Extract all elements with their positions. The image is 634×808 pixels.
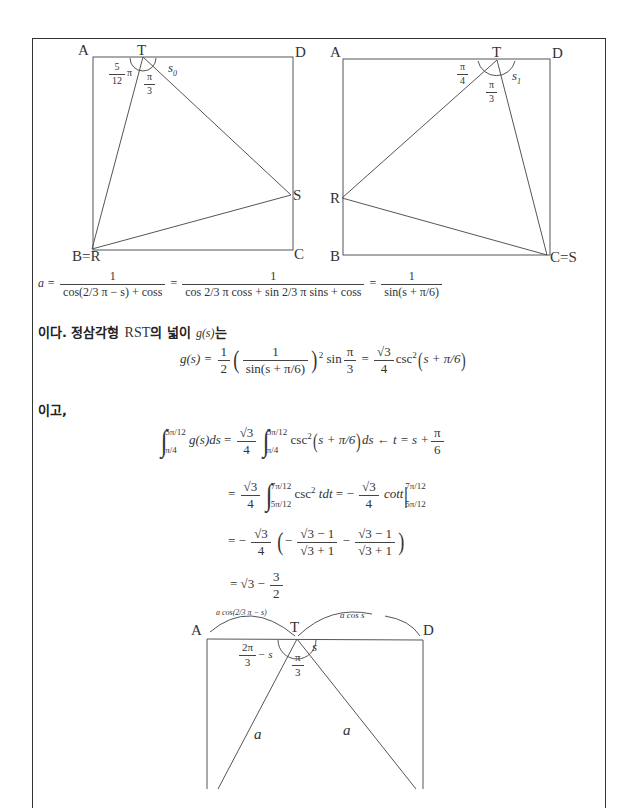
angle-left: π4 — [455, 62, 470, 86]
top-left-length-label: a cos(2/3 π − s) — [216, 608, 267, 617]
vertex-t: T — [137, 42, 146, 59]
text-area-statement: 이다. 정삼각형 RST의 넓이 g(s)는 — [38, 322, 227, 341]
equation-g: g(s) = 12(1sin(s + π/6))2 sinπ3 = √34csc… — [180, 345, 467, 375]
vertex-cs: C=S — [550, 249, 577, 266]
vertex-r: R — [330, 190, 340, 207]
angle-mid: π3 — [142, 72, 157, 96]
equation-a: a = 1cos(2/3 π − s) + coss = 1cos 2/3 π … — [38, 270, 444, 298]
integral-line-1: ∫5π/12π/4 g(s)ds = √34 ∫5π/12π/4 csc2(s … — [160, 424, 446, 458]
angle-right: s1 — [512, 68, 521, 86]
figure2-diagram — [342, 59, 550, 255]
angle-right: s — [312, 639, 317, 655]
side-right-label: a — [343, 722, 351, 739]
integral-line-2: = √34 ∫7π/125π/12 csc2 tdt = − √34 cott|… — [228, 478, 426, 512]
text-and: 이고, — [38, 400, 67, 419]
vertex-t: T — [492, 44, 501, 61]
vertex-a: A — [330, 44, 341, 61]
vertex-b: B — [330, 248, 340, 265]
vertex-d: D — [552, 45, 563, 62]
integral-line-4: = √3 − 32 — [230, 570, 285, 600]
side-left-label: a — [254, 726, 262, 743]
angle-left: 2π3− s — [237, 642, 273, 668]
top-right-length-label: a cos s — [340, 610, 365, 620]
angle-mid: π3 — [484, 80, 499, 104]
angle-right: s0 — [168, 60, 177, 78]
integral-line-3: = − √34 (− √3 − 1√3 + 1 − √3 − 1√3 + 1) — [228, 527, 406, 557]
vertex-t: T — [290, 619, 299, 636]
vertex-s: S — [293, 187, 301, 204]
vertex-d: D — [423, 622, 434, 639]
angle-left: 512π — [107, 62, 132, 86]
vertex-br: B=R — [72, 248, 100, 265]
angle-mid: π3 — [290, 652, 306, 678]
vertex-c: C — [294, 246, 304, 263]
vertex-a: A — [78, 42, 89, 59]
vertex-d: D — [295, 44, 306, 61]
vertex-a: A — [191, 622, 202, 639]
